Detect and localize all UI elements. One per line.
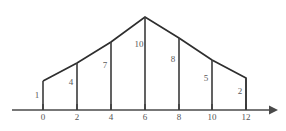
frequency-polygon-chart: 0 2 4 6 8 10 12 1 4 7 10 8 5 2 — [0, 0, 286, 131]
tick-label-4: 4 — [109, 112, 114, 122]
tick-label-6: 6 — [143, 112, 148, 122]
tick-label-2: 2 — [75, 112, 80, 122]
arrow-right-icon — [269, 105, 278, 114]
value-label-12: 2 — [238, 86, 243, 96]
tick-label-0: 0 — [41, 112, 46, 122]
tick-label-12: 12 — [242, 112, 251, 122]
value-label-8: 8 — [171, 54, 176, 64]
value-label-2: 4 — [69, 77, 74, 87]
value-label-6: 10 — [135, 39, 145, 49]
tick-label-10: 10 — [208, 112, 218, 122]
tick-label-8: 8 — [177, 112, 182, 122]
value-label-0: 1 — [35, 90, 40, 100]
value-label-4: 7 — [103, 60, 108, 70]
value-label-10: 5 — [204, 73, 209, 83]
figure-container: 0 2 4 6 8 10 12 1 4 7 10 8 5 2 — [0, 0, 286, 131]
